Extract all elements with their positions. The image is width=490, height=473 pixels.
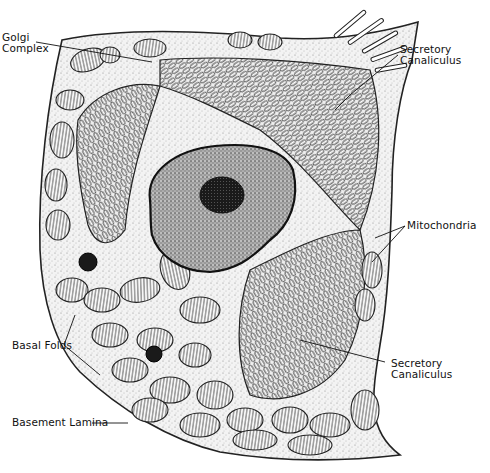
label-secretory-canaliculus-top: Secretory Canaliculus	[400, 44, 461, 66]
label-golgi-complex: Golgi Complex	[2, 32, 49, 54]
label-basal-folds: Basal Folds	[12, 340, 72, 351]
label-line: Basement Lamina	[12, 417, 108, 428]
label-line: Mitochondria	[407, 220, 477, 231]
parietal-cell-illustration	[0, 0, 490, 473]
label-secretory-canaliculus-bottom: Secretory Canaliculus	[391, 358, 452, 380]
label-basement-lamina: Basement Lamina	[12, 417, 108, 428]
dark-granule	[146, 346, 162, 362]
nucleolus	[200, 177, 244, 213]
label-line: Complex	[2, 43, 49, 54]
label-mitochondria: Mitochondria	[407, 220, 477, 231]
label-line: Basal Folds	[12, 340, 72, 351]
label-line: Canaliculus	[391, 369, 452, 380]
dark-granule	[79, 253, 97, 271]
label-line: Canaliculus	[400, 55, 461, 66]
